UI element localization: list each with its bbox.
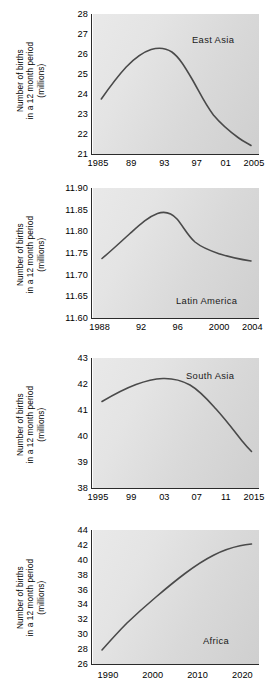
y-axis-title-line-2: in a 12 month period [26, 216, 36, 294]
x-tick-label: 1990 [98, 670, 119, 680]
y-axis-title-line-3: (millions) [36, 559, 46, 637]
series-line-africa [93, 530, 259, 664]
x-tick-label: 2020 [232, 670, 253, 680]
y-axis-title-africa: Number of births in a 12 month period (m… [0, 522, 62, 674]
series-label-africa: Africa [203, 635, 229, 646]
y-axis-title-east-asia: Number of births in a 12 month period (m… [0, 6, 62, 156]
x-tick-labels-latin-america: 1988 92 96 2000 2004 [93, 322, 259, 336]
x-tick-label: 2010 [187, 670, 208, 680]
y-tick-label: 11.90 [65, 183, 88, 193]
y-tick-labels-latin-america: 11.90 11.85 11.80 11.75 11.70 11.65 11.6… [48, 188, 88, 318]
y-tick-labels-africa: 44 42 40 38 36 34 32 30 28 26 [62, 530, 88, 664]
y-tick-label: 21 [78, 149, 88, 159]
x-axis-line-africa [91, 664, 259, 665]
y-tick-labels-east-asia: 28 27 26 25 24 23 22 21 [62, 14, 88, 154]
x-tick-label: 96 [172, 322, 182, 332]
y-tick-label: 42 [78, 379, 88, 389]
y-tick-label: 41 [78, 405, 88, 415]
y-axis-title-line-1: Number of births [15, 216, 25, 294]
x-tick-label: 2015 [244, 492, 265, 502]
y-tick-label: 36 [78, 585, 88, 595]
y-tick-label: 40 [78, 555, 88, 565]
y-tick-label: 39 [78, 457, 88, 467]
chart-panel-south-asia: Number of births in a 12 month period (m… [0, 352, 269, 517]
x-tick-label: 07 [192, 492, 202, 502]
y-axis-line-east-asia [91, 14, 92, 155]
x-tick-label: 2005 [244, 158, 265, 168]
x-tick-labels-africa: 1990 2000 2010 2020 [93, 670, 259, 684]
y-axis-line-south-asia [91, 358, 92, 489]
x-tick-label: 2004 [242, 322, 263, 332]
y-axis-title-south-asia: Number of births in a 12 month period (m… [0, 352, 62, 498]
y-axis-title-line-1: Number of births [15, 559, 25, 637]
y-tick-label: 28 [78, 644, 88, 654]
y-axis-title-line-3: (millions) [36, 216, 46, 294]
y-axis-title-line-2: in a 12 month period [26, 386, 36, 464]
y-tick-labels-south-asia: 43 42 41 40 39 38 [62, 358, 88, 488]
x-axis-line-latin-america [91, 318, 259, 319]
births-projection-figure: Number of births in a 12 month period (m… [0, 0, 269, 693]
y-tick-label: 42 [78, 540, 88, 550]
chart-panel-africa: Number of births in a 12 month period (m… [0, 522, 269, 693]
y-tick-label: 23 [78, 109, 88, 119]
chart-panel-east-asia: Number of births in a 12 month period (m… [0, 6, 269, 176]
y-axis-line-africa [91, 530, 92, 665]
y-tick-label: 44 [78, 525, 88, 535]
y-tick-label: 11.60 [65, 313, 88, 323]
x-tick-label: 2000 [142, 670, 163, 680]
x-tick-label: 01 [221, 158, 231, 168]
y-tick-label: 27 [78, 29, 88, 39]
y-tick-label: 30 [78, 629, 88, 639]
y-tick-label: 11.70 [65, 270, 88, 280]
y-tick-label: 38 [78, 570, 88, 580]
series-label-east-asia: East Asia [192, 34, 234, 45]
series-label-latin-america: Latin America [176, 295, 237, 306]
y-axis-title-line-3: (millions) [36, 386, 46, 464]
y-axis-line-latin-america [91, 188, 92, 319]
y-tick-label: 43 [78, 353, 88, 363]
y-axis-title-line-1: Number of births [15, 42, 25, 120]
y-tick-label: 25 [78, 69, 88, 79]
chart-panel-latin-america: Number of births in a 12 month period (m… [0, 182, 269, 347]
y-tick-label: 11.85 [65, 205, 88, 215]
y-tick-label: 11.65 [65, 291, 88, 301]
y-tick-label: 34 [78, 599, 88, 609]
y-tick-label: 26 [78, 49, 88, 59]
x-tick-label: 1985 [88, 158, 109, 168]
x-tick-labels-south-asia: 1995 99 03 07 11 2015 [93, 492, 259, 506]
x-tick-label: 93 [159, 158, 169, 168]
x-tick-label: 2000 [209, 322, 230, 332]
series-label-south-asia: South Asia [186, 370, 234, 381]
plot-area-africa [93, 530, 259, 664]
y-tick-label: 11.75 [65, 248, 88, 258]
y-tick-label: 38 [78, 483, 88, 493]
x-tick-label: 97 [192, 158, 202, 168]
x-tick-label: 11 [221, 492, 231, 502]
y-tick-label: 22 [78, 129, 88, 139]
x-tick-label: 92 [136, 322, 146, 332]
y-tick-label: 28 [78, 9, 88, 19]
x-tick-label: 1988 [89, 322, 110, 332]
y-axis-title-line-3: (millions) [36, 42, 46, 120]
x-axis-line-south-asia [91, 488, 259, 489]
y-tick-label: 32 [78, 614, 88, 624]
x-tick-label: 89 [126, 158, 136, 168]
x-tick-label: 1995 [88, 492, 109, 502]
y-axis-title-line-2: in a 12 month period [26, 559, 36, 637]
y-tick-label: 26 [78, 659, 88, 669]
x-tick-label: 99 [126, 492, 136, 502]
x-axis-line-east-asia [91, 154, 259, 155]
y-axis-title-line-1: Number of births [15, 386, 25, 464]
y-tick-label: 24 [78, 89, 88, 99]
x-tick-labels-east-asia: 1985 89 93 97 01 2005 [93, 158, 259, 172]
y-tick-label: 40 [78, 431, 88, 441]
y-axis-title-line-2: in a 12 month period [26, 42, 36, 120]
x-tick-label: 03 [159, 492, 169, 502]
y-tick-label: 11.80 [65, 226, 88, 236]
